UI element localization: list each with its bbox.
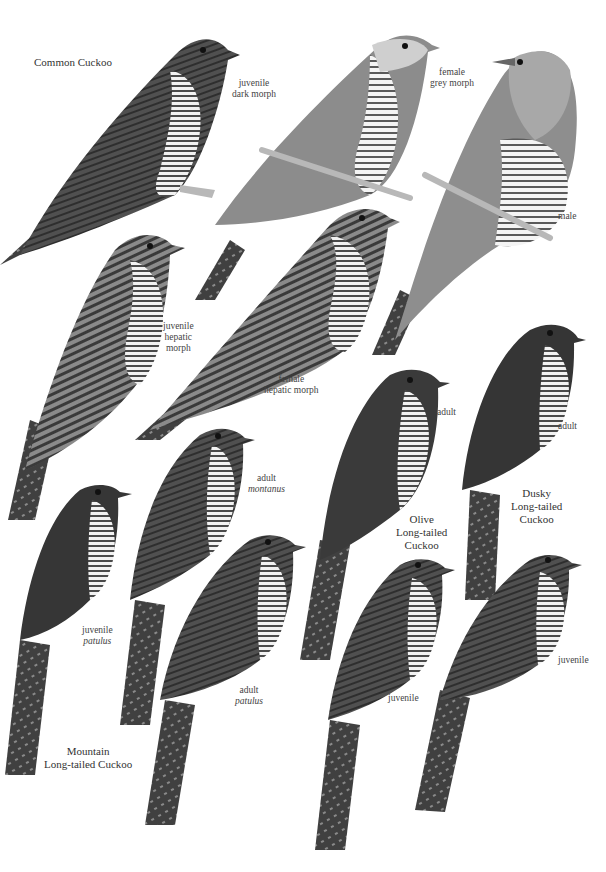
label-line: adult	[235, 685, 263, 696]
label-line: juvenile	[163, 321, 194, 332]
label-line: dark morph	[232, 89, 276, 100]
subspecies-name: patulus	[235, 696, 263, 707]
bird-common-juvenile-hepatic	[8, 235, 185, 520]
label-common-juvenile-hepatic: juvenile hepatic morph	[163, 321, 194, 354]
label-common-juvenile-dark: juvenile dark morph	[232, 78, 276, 100]
species-name-line: Long-tailed	[396, 526, 447, 539]
label-line: grey morph	[430, 78, 474, 89]
label-line: adult	[248, 473, 285, 484]
species-name-common-cuckoo: Common Cuckoo	[34, 56, 112, 69]
species-name-line: Cuckoo	[511, 513, 562, 526]
label-line: female	[264, 374, 319, 385]
label-common-female-hepatic: female hepatic morph	[264, 374, 319, 396]
label-line: hepatic	[163, 332, 194, 343]
bird-common-juvenile-dark	[0, 39, 240, 265]
label-mountain-adult-patulus: adult patulus	[235, 685, 263, 707]
label-line: juvenile	[82, 625, 113, 636]
species-name-line: Dusky	[511, 487, 562, 500]
label-line: adult	[437, 407, 456, 418]
bird-illustrations	[0, 0, 606, 872]
label-line: female	[430, 67, 474, 78]
label-line: hepatic morph	[264, 385, 319, 396]
label-line: juvenile	[388, 693, 419, 704]
subspecies-name: montanus	[248, 484, 285, 495]
label-mountain-juvenile-patulus: juvenile patulus	[82, 625, 113, 647]
label-common-female-grey: female grey morph	[430, 67, 474, 89]
label-line: morph	[163, 343, 194, 354]
species-name-line: Cuckoo	[396, 539, 447, 552]
species-name-line: Mountain	[44, 745, 132, 758]
species-name-line: Olive	[396, 513, 447, 526]
label-common-male: male	[558, 211, 576, 222]
species-name-text: Common Cuckoo	[34, 56, 112, 68]
label-line: juvenile	[558, 655, 589, 666]
label-dusky-juvenile: juvenile	[558, 655, 589, 666]
label-mountain-adult-montanus: adult montanus	[248, 473, 285, 495]
label-line: adult	[558, 421, 577, 432]
label-dusky-adult: adult	[558, 421, 577, 432]
species-name-olive: Olive Long-tailed Cuckoo	[396, 513, 447, 552]
species-name-dusky: Dusky Long-tailed Cuckoo	[511, 487, 562, 526]
label-olive-adult: adult	[437, 407, 456, 418]
species-name-line: Long-tailed Cuckoo	[44, 758, 132, 771]
species-name-line: Long-tailed	[511, 500, 562, 513]
label-olive-juvenile: juvenile	[388, 693, 419, 704]
species-name-mountain: Mountain Long-tailed Cuckoo	[44, 745, 132, 771]
bird-dusky-adult	[462, 325, 586, 600]
label-line: male	[558, 211, 576, 222]
subspecies-name: patulus	[82, 636, 113, 647]
cuckoo-plate: Common Cuckoo juvenile dark morph female…	[0, 0, 606, 872]
label-line: juvenile	[232, 78, 276, 89]
